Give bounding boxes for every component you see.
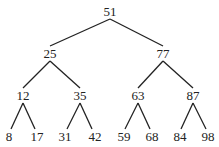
tree-edge-87-84 <box>181 103 193 129</box>
tree-edge-25-35 <box>50 61 80 88</box>
tree-edge-35-31 <box>67 103 80 129</box>
tree-edge-87-98 <box>193 103 206 129</box>
tree-node-51: 51 <box>104 4 117 19</box>
tree-edge-63-68 <box>138 103 150 129</box>
tree-edge-77-87 <box>163 61 193 88</box>
tree-edge-51-77 <box>110 19 163 46</box>
tree-edge-51-25 <box>50 19 110 46</box>
tree-node-12: 12 <box>17 88 30 103</box>
tree-edges <box>11 19 206 129</box>
tree-edge-77-63 <box>138 61 163 88</box>
tree-node-25: 25 <box>44 46 57 61</box>
tree-node-63: 63 <box>132 88 145 103</box>
tree-node-17: 17 <box>31 129 45 144</box>
tree-node-68: 68 <box>146 129 159 144</box>
tree-edge-12-8 <box>11 103 23 129</box>
tree-edge-12-17 <box>23 103 35 129</box>
tree-node-98: 98 <box>202 129 215 144</box>
tree-node-84: 84 <box>174 129 188 144</box>
binary-tree-diagram: 51257712356387817314259688498 <box>0 0 219 147</box>
tree-node-35: 35 <box>74 88 87 103</box>
tree-node-8: 8 <box>6 129 13 144</box>
tree-node-42: 42 <box>89 129 102 144</box>
tree-edge-35-42 <box>80 103 92 129</box>
tree-node-59: 59 <box>118 129 131 144</box>
tree-node-77: 77 <box>157 46 171 61</box>
tree-edge-63-59 <box>125 103 138 129</box>
tree-node-31: 31 <box>59 129 72 144</box>
tree-node-87: 87 <box>187 88 201 103</box>
tree-edge-25-12 <box>23 61 50 88</box>
